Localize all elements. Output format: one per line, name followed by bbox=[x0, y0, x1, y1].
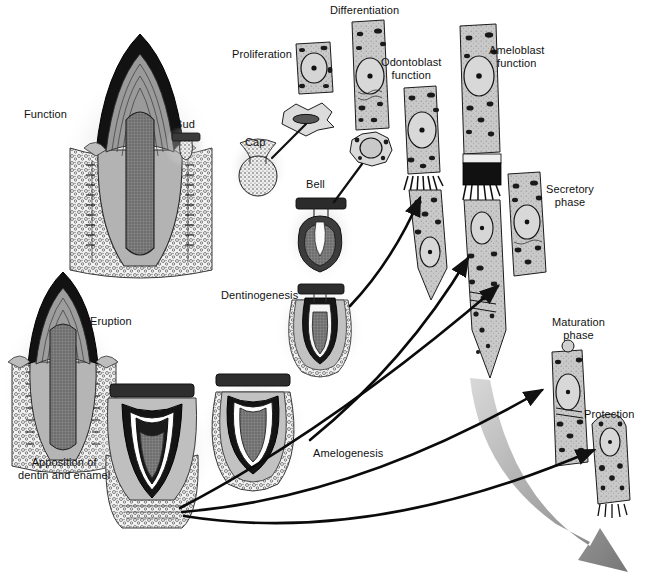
flow-arrows bbox=[180, 198, 594, 523]
label-protection: Protection bbox=[584, 408, 635, 421]
label-apposition: Apposition of dentin and enamel bbox=[18, 456, 110, 482]
label-dentinogenesis: Dentinogenesis bbox=[221, 289, 298, 302]
figure-cell-proliferation bbox=[296, 42, 333, 94]
label-bud: Bud bbox=[175, 118, 195, 131]
label-odontoblast-function: Odontoblast function bbox=[381, 56, 441, 82]
label-maturation-phase: Maturation phase bbox=[552, 316, 605, 342]
label-eruption: Eruption bbox=[90, 315, 132, 328]
label-ameloblast-function: Ameloblast function bbox=[489, 44, 544, 70]
label-cap: Cap bbox=[245, 136, 265, 149]
figure-amelogenesis-germ bbox=[197, 370, 309, 494]
label-proliferation: Proliferation bbox=[232, 48, 292, 61]
label-secretory-phase: Secretory phase bbox=[546, 183, 594, 209]
diagram-canvas: Function Bud Cap Bell Proliferation Diff… bbox=[0, 0, 647, 588]
label-bell: Bell bbox=[306, 178, 325, 191]
figure-cell-stellate bbox=[282, 103, 334, 136]
figure-function-tooth bbox=[58, 34, 222, 285]
label-amelogenesis: Amelogenesis bbox=[313, 447, 383, 460]
label-function: Function bbox=[24, 108, 67, 121]
figure-apposition-germ bbox=[88, 380, 216, 528]
figure-cell-maturation bbox=[552, 340, 588, 466]
figure-cell-preodontoblast bbox=[350, 132, 392, 166]
diagram-artwork bbox=[0, 0, 647, 588]
figure-cell-ameloblast bbox=[460, 24, 506, 378]
figure-cell-secretory bbox=[508, 172, 546, 276]
figure-cell-odontoblast bbox=[404, 86, 447, 300]
figure-bell-germ bbox=[284, 194, 356, 282]
label-differentiation: Differentiation bbox=[330, 4, 399, 17]
figure-eruption-tooth bbox=[0, 272, 124, 473]
figure-cell-protection bbox=[592, 414, 630, 518]
